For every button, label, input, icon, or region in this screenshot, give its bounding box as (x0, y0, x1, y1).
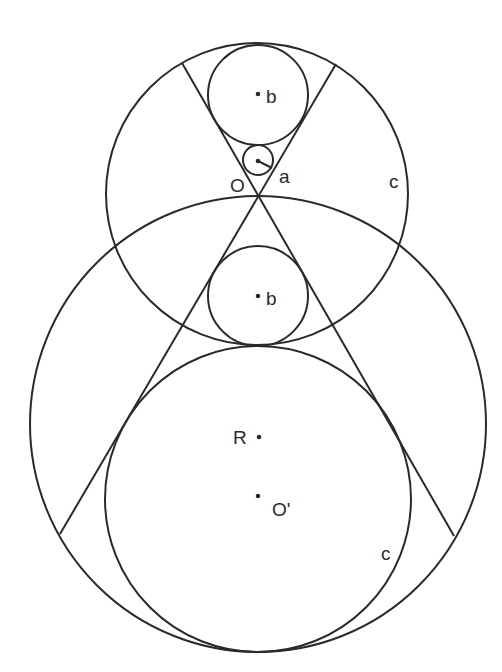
tangent-line-2 (60, 64, 336, 534)
center-point-b-upper (256, 92, 261, 97)
point-O-prime (256, 494, 261, 499)
point-R (257, 435, 262, 440)
label-a: a (279, 166, 290, 187)
center-point-a (256, 159, 261, 164)
center-point-b-lower (256, 294, 261, 299)
geometry-diagram: b a O c b R O' c (0, 0, 502, 672)
large-circle (30, 196, 486, 652)
label-b-upper: b (266, 86, 277, 107)
tangent-line-1 (182, 63, 454, 536)
label-c-upper: c (389, 171, 399, 192)
label-O: O (230, 175, 245, 196)
radius-a (258, 161, 272, 168)
label-R: R (233, 427, 247, 448)
label-b-lower: b (266, 288, 277, 309)
lower-circle-c (105, 346, 411, 652)
label-O-prime: O' (272, 499, 290, 520)
label-c-lower: c (381, 543, 391, 564)
